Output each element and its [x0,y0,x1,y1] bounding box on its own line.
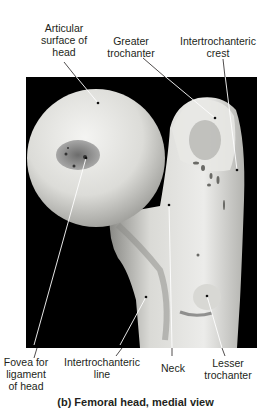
label-line: Intertrochanteric [62,356,142,368]
label-line: line [62,368,142,380]
label-line: Fovea for [2,356,50,368]
figure-caption: (b) Femoral head, medial view [0,396,271,408]
label-lesser-trochanter: Lesser trochanter [200,357,256,381]
fovea [56,140,100,170]
label-line: crest [178,47,258,59]
label-greater-trochanter: Greater trochanter [103,35,159,59]
label-neck: Neck [155,362,191,374]
label-line: surface of [32,34,96,46]
label-fovea: Fovea for ligament of head [2,356,50,392]
label-intertrochanteric-crest: Intertrochanteric crest [178,35,258,59]
label-line: trochanter [103,47,159,59]
label-line: of head [2,380,50,392]
label-line: Neck [155,362,191,374]
femoral-head-illustration [0,0,271,412]
label-line: Articular [32,22,96,34]
label-line: Greater [103,35,159,47]
label-line: ligament [2,368,50,380]
label-articular-surface: Articular surface of head [32,22,96,58]
label-line: head [32,46,96,58]
label-line: Lesser [200,357,256,369]
label-line: Intertrochanteric [178,35,258,47]
label-line: trochanter [200,369,256,381]
label-intertrochanteric-line: Intertrochanteric line [62,356,142,380]
